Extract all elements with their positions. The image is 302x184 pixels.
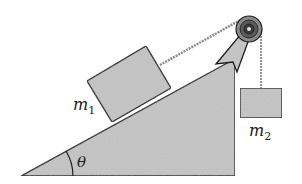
label-m2-main: m: [249, 121, 264, 140]
label-theta: θ: [77, 153, 86, 171]
diagram-canvas: m1 m2 θ: [0, 0, 302, 184]
label-m2: m2: [249, 121, 271, 143]
label-m2-sub: 2: [264, 130, 271, 143]
block-m2: [240, 88, 282, 118]
label-m1: m1: [73, 95, 95, 117]
pulley: [236, 16, 262, 42]
label-m1-sub: 1: [88, 104, 95, 117]
label-m1-main: m: [73, 95, 88, 114]
